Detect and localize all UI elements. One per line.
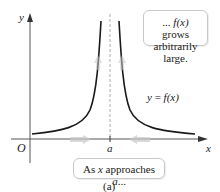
callout-grows-large: ... f(x) grows arbitrarily large. xyxy=(143,10,208,46)
callout-x-approaches-a: As x approaches a... xyxy=(73,158,165,179)
up-arrow-left-icon xyxy=(94,55,102,70)
callout-top-line2: arbitrarily large. xyxy=(149,40,202,64)
figure-caption: (a) xyxy=(103,181,115,192)
callout-top-grows: grows xyxy=(162,28,189,40)
callout-top-ellipsis: ... xyxy=(162,16,173,28)
up-arrow-right-icon xyxy=(118,55,126,70)
callout-bottom-middle: approaches xyxy=(103,163,155,175)
curve-left-branch xyxy=(32,21,101,134)
callout-top-line1: ... f(x) grows xyxy=(149,16,202,40)
callout-bottom-prefix: As xyxy=(83,163,98,175)
origin-label: O xyxy=(17,142,26,154)
callout-top-func: f(x) xyxy=(173,16,188,28)
left-arrow-toward-a-icon xyxy=(129,135,150,144)
right-arrow-toward-a-icon xyxy=(70,135,91,144)
curve-equation-label: y = f(x) xyxy=(147,92,179,103)
y-axis-arrow-icon xyxy=(27,13,33,22)
asymptote-a-label: a xyxy=(107,143,113,154)
callout-bottom-suffix: ... xyxy=(118,175,126,187)
x-axis-label: x xyxy=(206,143,211,154)
y-axis-label: y xyxy=(19,12,24,23)
curve-equation-eq: = xyxy=(152,91,164,103)
curve-equation-func: f(x) xyxy=(164,91,179,103)
